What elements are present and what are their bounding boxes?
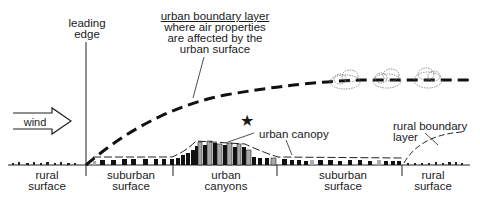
leading-edge-line2: edge [66,29,108,40]
ubl-desc-line3: urban surface [155,44,275,55]
zone-label-suburban-left: suburban surface [103,170,159,192]
ubl-leader-line [193,57,204,98]
zone-label-rural-left: rural surface [22,170,72,192]
urban-canyon-buildings [176,141,276,165]
urban-canopy-label: urban canopy [259,129,329,140]
zone-label-urban-canyons: urban canyons [198,170,254,192]
zone-label-suburban-right: suburban surface [315,170,371,192]
suburban-buildings-left [93,159,174,165]
canopy-leader-line [228,133,254,142]
suburban-buildings-right [282,159,401,165]
zone-line2: surface [22,181,72,192]
canopy-leader-line-2 [286,140,292,155]
leading-edge-label: leading edge [66,18,108,40]
rural-boundary-layer-label: rural boundary layer [393,121,467,143]
zone-line2: surface [408,181,458,192]
zone-label-rural-right: rural surface [408,170,458,192]
urban-boundary-layer-diagram: leading edge urban boundary layer where … [0,0,480,205]
urban-boundary-layer-label: urban boundary layer where air propertie… [155,11,275,55]
wind-label: wind [22,117,48,128]
zone-line2: canyons [198,181,254,192]
star-icon: ★ [239,113,255,129]
zone-line2: surface [315,181,371,192]
rural-bl-line2: layer [393,132,467,143]
zone-line2: surface [103,181,159,192]
cloud-icon [414,68,442,88]
